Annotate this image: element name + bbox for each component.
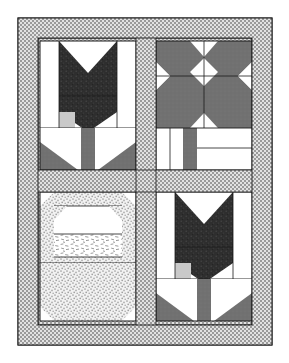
tulip-accent-square [59,112,75,128]
block-top-right-star [156,41,252,170]
block-bottom-right-tulip [156,192,252,321]
tulip-bg-right-strip [233,192,252,279]
block-bottom-left-basket [40,192,136,321]
tulip-bg-left-strip [40,41,59,128]
star-stem [183,128,197,170]
tulip-stem [81,128,95,170]
block-top-left-tulip [40,41,136,170]
quilt-diagram [0,0,289,363]
tulip-bg-right-strip [117,41,136,128]
basket-scribble-band [54,234,122,257]
basket-lower-body [40,263,136,321]
sashing-horizontal-center [38,170,252,192]
tulip-accent-square [175,263,191,279]
tulip-bg-left-strip [156,192,175,279]
quilt-illustration [0,0,289,363]
tulip-stem [197,279,211,321]
